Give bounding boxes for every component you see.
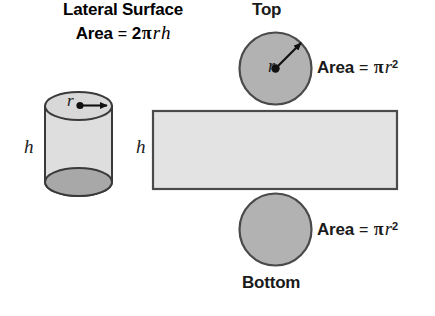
rectangle-height-label: h [136,137,146,157]
radius-variable: r [384,219,392,239]
cylinder-height-label: h [24,137,34,157]
pi-symbol: π [141,23,152,44]
exponent-two: 2 [392,59,398,71]
top-circle-area-formula: Area = π r 2 [317,57,398,77]
pi-symbol: π [373,220,384,239]
area-word: Area [317,221,354,239]
lateral-area-formula: Area = 2 π r h [76,22,171,44]
cylinder-bottom-ellipse [45,168,112,196]
cylinder-3d-shape [45,92,112,196]
radius-variable: r [384,57,392,77]
lateral-surface-text-block: Lateral Surface Area = 2 π r h [0,0,246,44]
bottom-circle-shape [240,194,312,266]
equals-sign: = [359,222,368,239]
pi-symbol: π [373,58,384,77]
exponent-two: 2 [392,221,398,233]
height-variable: h [160,22,170,44]
cylinder-surface-area-diagram: Top Bottom h h r r Area = π r 2 Area = π… [0,0,435,316]
bottom-label: Bottom [242,274,300,292]
equals-sign: = [118,25,127,43]
area-word: Area [76,24,113,44]
lateral-surface-label: Lateral Surface [0,0,246,20]
bottom-circle-area-formula: Area = π r 2 [317,219,398,239]
lateral-surface-rectangle [153,111,397,189]
radius-variable: r [152,22,160,44]
lateral-area-line: Area = 2 π r h [0,22,246,44]
cylinder-radius-label: r [67,92,74,110]
diagram-canvas [0,0,435,316]
equals-sign: = [359,60,368,77]
area-word: Area [317,59,354,77]
bottom-circle [240,194,312,266]
top-circle-shape [240,33,312,105]
coefficient-two: 2 [132,24,141,44]
top-circle-radius-label: r [268,57,275,76]
top-label: Top [252,1,281,19]
